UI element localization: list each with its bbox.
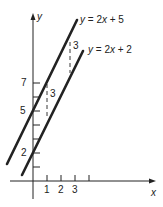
x-axis-arrow-icon (149, 179, 156, 184)
equation-label-1: y = 2x + 5 (79, 14, 124, 25)
y-tick-label-7: 7 (21, 77, 27, 88)
y-axis-arrow-icon (31, 13, 36, 20)
y-tick-label-5: 5 (20, 105, 26, 116)
x-tick-label-2: 2 (58, 184, 64, 195)
y-axis-label: y (36, 11, 43, 22)
gap-label-left: 3 (50, 88, 56, 99)
line-y-2x-plus-5 (7, 20, 77, 164)
gap-label-right: 3 (73, 40, 79, 51)
graph-diagram: y x 1 2 3 7 5 2 3 3 y = 2x + 5 y = 2x + … (0, 0, 163, 207)
x-axis-label: x (150, 187, 157, 198)
x-tick-label-1: 1 (44, 184, 50, 195)
x-tick-label-3: 3 (72, 184, 78, 195)
y-tick-label-2: 2 (21, 147, 27, 158)
equation-label-2: y = 2x + 2 (87, 44, 132, 55)
x-ticks (47, 175, 89, 181)
